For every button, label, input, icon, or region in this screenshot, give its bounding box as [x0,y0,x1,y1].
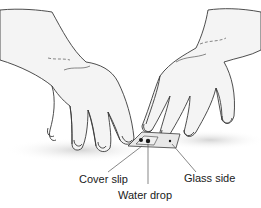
label-water-drop: Water drop [118,189,172,201]
glass-dot [169,140,171,142]
label-cover-slip: Cover slip [79,173,128,185]
left-hand [0,9,134,151]
water-drop-dot [139,138,143,142]
right-hand [142,9,261,138]
water-drop-dot [146,139,150,143]
label-glass-side: Glass side [184,172,235,184]
